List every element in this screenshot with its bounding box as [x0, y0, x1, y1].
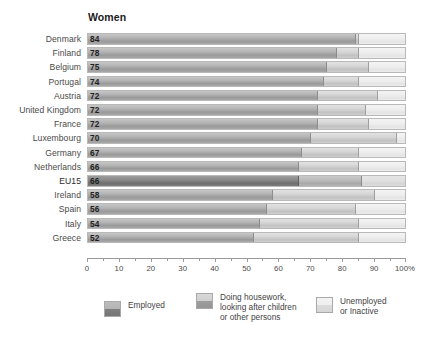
legend-label-inactive: Unemployed or Inactive — [340, 296, 387, 316]
bar-row: Portugal74 — [0, 75, 423, 89]
bar-segment-employed — [88, 77, 324, 87]
x-axis-tick — [374, 258, 375, 262]
bar-track — [87, 47, 406, 59]
bar-value-label: 72 — [90, 105, 99, 115]
bar-row-label: Luxembourg — [0, 133, 81, 143]
x-axis-tick-label: 0 — [85, 264, 89, 273]
bar-row: Belgium75 — [0, 60, 423, 74]
x-axis-tick-label: 60 — [274, 264, 283, 273]
bar-track — [87, 132, 406, 144]
x-axis-minor-tick — [294, 258, 295, 261]
bar-segment-housework — [260, 219, 359, 229]
bar-row: Denmark84 — [0, 32, 423, 46]
bar-segment-housework — [318, 91, 379, 101]
bar-track — [87, 147, 406, 159]
bar-row-label: Denmark — [0, 34, 81, 44]
bar-track — [87, 161, 406, 173]
bar-track — [87, 175, 406, 187]
bar-row-label: Ireland — [0, 190, 81, 200]
bar-row-label: Greece — [0, 233, 81, 243]
x-axis-minor-tick — [167, 258, 168, 261]
x-axis: 0102030405060708090100% — [87, 258, 406, 282]
bar-value-label: 75 — [90, 62, 99, 72]
x-axis-minor-tick — [199, 258, 200, 261]
x-axis-tick-label: 50 — [242, 264, 251, 273]
legend-item-inactive: Unemployed or Inactive — [316, 296, 387, 316]
x-axis-tick-label: 20 — [146, 264, 155, 273]
bar-track — [87, 33, 406, 45]
x-axis-tick — [215, 258, 216, 262]
bar-value-label: 72 — [90, 119, 99, 129]
bar-row: Germany67 — [0, 146, 423, 160]
bar-segment-housework — [302, 148, 359, 158]
bar-segment-inactive — [359, 77, 406, 87]
bar-value-label: 52 — [90, 233, 99, 243]
bar-segment-housework — [311, 133, 397, 143]
bar-segment-employed — [88, 204, 267, 214]
x-axis-tick — [183, 258, 184, 262]
bar-segment-housework — [254, 233, 359, 243]
x-axis-tick — [278, 258, 279, 262]
bar-value-label: 66 — [90, 162, 99, 172]
bar-value-label: 58 — [90, 190, 99, 200]
bar-row: Ireland58 — [0, 188, 423, 202]
bar-segment-housework — [337, 48, 359, 58]
x-axis-tick — [310, 258, 311, 262]
bar-segment-employed — [88, 162, 299, 172]
bar-track — [87, 189, 406, 201]
bar-row: Finland78 — [0, 46, 423, 60]
bar-track — [87, 203, 406, 215]
bar-segment-housework — [324, 77, 359, 87]
x-axis-tick-label: 30 — [178, 264, 187, 273]
bar-segment-inactive — [378, 91, 406, 101]
bar-row-label: Belgium — [0, 62, 81, 72]
bar-segment-employed — [88, 233, 254, 243]
chart-legend: Employed Doing housework, looking after … — [0, 292, 423, 336]
bar-segment-employed — [88, 190, 273, 200]
bar-segment-employed — [88, 62, 327, 72]
bar-segment-inactive — [359, 233, 406, 243]
bar-segment-employed — [88, 133, 311, 143]
legend-item-housework: Doing housework, looking after children … — [196, 292, 297, 323]
bar-row-label: Austria — [0, 91, 81, 101]
x-axis-tick-label: 90 — [370, 264, 379, 273]
bar-row: EU1566 — [0, 174, 423, 188]
bar-segment-employed — [88, 48, 337, 58]
bar-segment-inactive — [375, 190, 406, 200]
x-axis-tick-label: 10 — [115, 264, 124, 273]
bar-segment-housework — [273, 190, 375, 200]
bar-segment-inactive — [359, 48, 406, 58]
legend-label-housework: Doing housework, looking after children … — [220, 292, 297, 323]
bar-segment-housework — [327, 62, 368, 72]
bar-segment-housework — [299, 176, 363, 186]
bar-track — [87, 76, 406, 88]
bar-segment-inactive — [369, 62, 406, 72]
bar-track — [87, 232, 406, 244]
bar-segment-inactive — [397, 133, 406, 143]
x-axis-minor-tick — [326, 258, 327, 261]
x-axis-tick — [247, 258, 248, 262]
bar-segment-employed — [88, 176, 299, 186]
x-axis-tick — [151, 258, 152, 262]
bar-segment-employed — [88, 105, 318, 115]
x-axis-minor-tick — [135, 258, 136, 261]
bar-segment-employed — [88, 91, 318, 101]
bar-segment-inactive — [359, 148, 406, 158]
bar-value-label: 56 — [90, 204, 99, 214]
bar-track — [87, 104, 406, 116]
bar-row-label: Italy — [0, 219, 81, 229]
bar-row: Italy54 — [0, 217, 423, 231]
bar-segment-employed — [88, 148, 302, 158]
bar-track — [87, 218, 406, 230]
bar-segment-inactive — [359, 162, 406, 172]
x-axis-tick — [342, 258, 343, 262]
bar-row: United Kingdom72 — [0, 103, 423, 117]
bar-row-label: Netherlands — [0, 162, 81, 172]
bar-segment-inactive — [366, 105, 406, 115]
bar-row-label: EU15 — [0, 176, 81, 186]
bar-segment-inactive — [359, 34, 406, 44]
x-axis-minor-tick — [262, 258, 263, 261]
legend-swatch-housework — [196, 293, 213, 309]
x-axis-minor-tick — [390, 258, 391, 261]
bar-segment-housework — [267, 204, 356, 214]
